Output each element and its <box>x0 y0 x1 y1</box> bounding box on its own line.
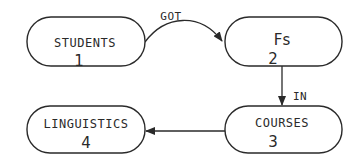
edge-label-got: GOT <box>160 10 181 23</box>
node-linguistics: LINGUISTICS 4 <box>27 106 145 153</box>
node-students: STUDENTS 1 <box>27 17 145 70</box>
node-label: COURSES <box>255 116 309 130</box>
node-courses: COURSES 3 <box>225 106 342 153</box>
node-number: 2 <box>268 50 278 68</box>
node-fs: Fs 2 <box>225 17 342 68</box>
node-label: Fs <box>274 31 291 49</box>
edge-label-in: IN <box>293 90 307 103</box>
node-number: 4 <box>81 134 91 152</box>
node-label: STUDENTS <box>54 36 116 50</box>
arrow-got <box>145 20 222 42</box>
node-label: LINGUISTICS <box>44 117 129 131</box>
edge-in: IN <box>282 66 307 105</box>
edge-got: GOT <box>145 10 222 42</box>
node-number: 3 <box>268 133 278 151</box>
diagram-canvas: GOT IN STUDENTS 1 Fs 2 COURSES 3 LINGUIS… <box>0 0 360 167</box>
node-number: 1 <box>74 52 84 70</box>
